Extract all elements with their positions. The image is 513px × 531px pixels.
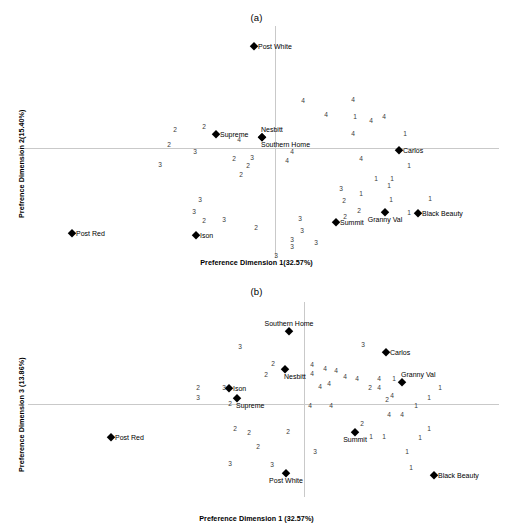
consumer-cluster-point: 4 <box>400 412 404 419</box>
consumer-cluster-point: 1 <box>374 176 378 183</box>
consumer-cluster-point: 2 <box>228 401 232 408</box>
consumer-cluster-point: 1 <box>414 403 418 410</box>
brand-label: Supreme <box>236 402 264 409</box>
brand-label: Post Red <box>76 230 105 237</box>
consumer-cluster-point: 3 <box>313 449 317 456</box>
consumer-cluster-point: 4 <box>318 384 322 391</box>
brand-label: Post Red <box>115 434 144 441</box>
brand-label: Nesbitt <box>261 126 283 133</box>
consumer-cluster-point: 3 <box>270 462 274 469</box>
consumer-cluster-point: 4 <box>387 412 391 419</box>
consumer-cluster-point: 2 <box>368 385 372 392</box>
brand-label: Carlos <box>390 349 410 356</box>
brand-label: Ison <box>200 232 213 239</box>
consumer-cluster-point: 2 <box>239 172 243 179</box>
brand-label: Southern Home <box>264 320 313 327</box>
consumer-cluster-point: 2 <box>286 429 290 436</box>
consumer-cluster-point: 3 <box>250 155 254 162</box>
brand-label: Post White <box>269 477 303 484</box>
consumer-cluster-point: 3 <box>361 342 365 349</box>
consumer-cluster-point: 3 <box>193 149 197 156</box>
consumer-cluster-point: 4 <box>390 393 394 400</box>
consumer-cluster-point: 1 <box>359 191 363 198</box>
panel-b-title: (b) <box>0 286 513 297</box>
consumer-cluster-point: 2 <box>233 426 237 433</box>
consumer-cluster-point: 4 <box>310 362 314 369</box>
brand-label: Black Beauty <box>438 472 479 479</box>
consumer-cluster-point: 2 <box>342 198 346 205</box>
brand-label: Black Beauty <box>422 210 463 217</box>
consumer-cluster-point: 3 <box>196 395 200 402</box>
consumer-cluster-point: 3 <box>228 461 232 468</box>
consumer-cluster-point: 4 <box>355 376 359 383</box>
consumer-cluster-point: 2 <box>167 142 171 149</box>
consumer-cluster-point: 2 <box>385 397 389 404</box>
consumer-cluster-point: 3 <box>339 186 343 193</box>
consumer-cluster-point: 1 <box>409 465 413 472</box>
consumer-cluster-point: 4 <box>359 156 363 163</box>
consumer-cluster-point: 1 <box>407 163 411 170</box>
consumer-cluster-point: 4 <box>327 381 331 388</box>
brand-label: Post White <box>258 43 292 50</box>
consumer-cluster-point: 1 <box>428 196 432 203</box>
consumer-cluster-point: 2 <box>360 421 364 428</box>
consumer-cluster-point: 2 <box>232 156 236 163</box>
consumer-cluster-point: 1 <box>407 210 411 217</box>
brand-label: Granny Val <box>401 371 436 378</box>
consumer-cluster-point: 4 <box>290 149 294 156</box>
brand-label: Nesbitt <box>284 373 306 380</box>
panel-a-x-axis-line <box>18 148 499 149</box>
consumer-cluster-point: 2 <box>247 430 251 437</box>
consumer-cluster-point: 4 <box>329 403 333 410</box>
consumer-cluster-point: 2 <box>202 218 206 225</box>
consumer-cluster-point: 3 <box>300 228 304 235</box>
brand-label: Southern Home <box>261 141 310 148</box>
consumer-cluster-point: 1 <box>427 426 431 433</box>
consumer-cluster-point: 1 <box>405 449 409 456</box>
consumer-cluster-point: 4 <box>377 376 381 383</box>
consumer-cluster-point: 4 <box>301 98 305 105</box>
panel-a-title: (a) <box>0 12 513 23</box>
consumer-cluster-point: 2 <box>196 385 200 392</box>
consumer-cluster-point: 4 <box>310 371 314 378</box>
consumer-cluster-point: 4 <box>308 403 312 410</box>
consumer-cluster-point: 3 <box>298 216 302 223</box>
consumer-cluster-point: 3 <box>274 253 278 260</box>
panel-b-plot-area <box>0 302 513 494</box>
consumer-cluster-point: 4 <box>324 112 328 119</box>
consumer-cluster-point: 2 <box>254 225 258 232</box>
brand-label: Supreme <box>220 131 248 138</box>
consumer-cluster-point: 2 <box>256 444 260 451</box>
consumer-cluster-point: 3 <box>290 244 294 251</box>
consumer-cluster-point: 2 <box>246 163 250 170</box>
brand-label: Summit <box>340 219 364 226</box>
consumer-cluster-point: 2 <box>202 124 206 131</box>
consumer-cluster-point: 2 <box>173 127 177 134</box>
figure-preference-mapping: (a) Preference Dimension 1(32.57%) Prefr… <box>0 0 513 531</box>
consumer-cluster-point: 3 <box>222 217 226 224</box>
consumer-cluster-point: 4 <box>377 385 381 392</box>
consumer-cluster-point: 1 <box>389 197 393 204</box>
consumer-cluster-point: 1 <box>387 183 391 190</box>
consumer-cluster-point: 3 <box>198 197 202 204</box>
consumer-cluster-point: 4 <box>382 114 386 121</box>
panel-b-y-axis-label: Preference Dimension 3 (13.86%) <box>17 357 26 472</box>
consumer-cluster-point: 2 <box>357 208 361 215</box>
consumer-cluster-point: 1 <box>427 395 431 402</box>
panel-b-x-axis-label: Preference Dimension 1 (32.57%) <box>0 514 513 523</box>
consumer-cluster-point: 1 <box>438 385 442 392</box>
consumer-cluster-point: 1 <box>418 435 422 442</box>
consumer-cluster-point: 4 <box>323 366 327 373</box>
consumer-cluster-point: 1 <box>353 114 357 121</box>
brand-label: Summit <box>343 436 367 443</box>
consumer-cluster-point: 1 <box>369 434 373 441</box>
consumer-cluster-point: 1 <box>403 131 407 138</box>
consumer-cluster-point: 4 <box>334 368 338 375</box>
consumer-cluster-point: 3 <box>192 209 196 216</box>
consumer-cluster-point: 2 <box>271 361 275 368</box>
brand-label: Ison <box>233 385 246 392</box>
panel-a-x-axis-label: Preference Dimension 1(32.57%) <box>0 258 513 267</box>
panel-a-plot-area <box>0 24 513 252</box>
consumer-cluster-point: 4 <box>285 158 289 165</box>
consumer-cluster-point: 4 <box>351 131 355 138</box>
